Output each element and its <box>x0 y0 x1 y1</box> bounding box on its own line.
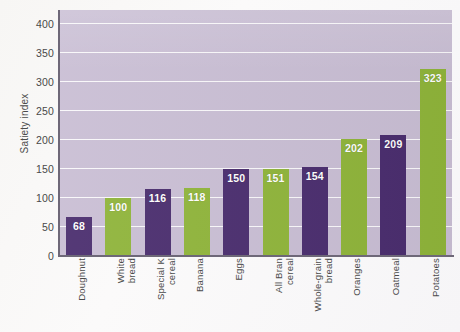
bar-value-label: 154 <box>302 170 328 182</box>
bar-value-label: 202 <box>341 142 367 154</box>
y-tick-label-400: 400 <box>24 18 54 30</box>
y-tick-label-250: 250 <box>24 105 54 117</box>
y-tick-label-200: 200 <box>24 134 54 146</box>
bar-oatmeal[interactable]: 209 <box>380 135 406 256</box>
bar-value-label: 116 <box>145 192 171 204</box>
y-tick-label-300: 300 <box>24 76 54 88</box>
x-tick-label: All Brancereal <box>274 258 295 330</box>
x-tick-whole-grain-bread: Whole-grainbread <box>300 258 326 330</box>
y-tick-label-50: 50 <box>24 221 54 233</box>
bar-special-k-cereal[interactable]: 116 <box>145 189 171 256</box>
gridline-400 <box>60 23 452 25</box>
y-tick-label-100: 100 <box>24 192 54 204</box>
x-tick-special-k-cereal: Special Kcereal <box>143 258 169 330</box>
bar-doughnut[interactable]: 68 <box>66 217 92 256</box>
bar-value-label: 209 <box>380 138 406 150</box>
x-axis-line <box>58 255 454 257</box>
bar-value-label: 323 <box>420 72 446 84</box>
y-axis-tick-labels: 050100150200250300350400 <box>24 10 54 256</box>
x-tick-label: Banana <box>195 258 206 330</box>
bar-value-label: 100 <box>105 201 131 213</box>
x-tick-label: Eggs <box>234 258 245 330</box>
x-axis-tick-labels: DoughnutWhitebreadSpecial KcerealBananaE… <box>58 258 452 332</box>
bar-value-label: 68 <box>66 220 92 232</box>
y-tick-label-150: 150 <box>24 163 54 175</box>
bar-oranges[interactable]: 202 <box>341 139 367 256</box>
x-tick-label: Potatoes <box>431 258 442 330</box>
x-tick-label: Special Kcereal <box>156 258 177 330</box>
gridline-250 <box>60 110 452 112</box>
bar-all-bran-cereal[interactable]: 151 <box>263 169 289 256</box>
x-tick-label: Whitebread <box>116 258 137 330</box>
x-tick-label: Whole-grainbread <box>313 258 334 330</box>
bar-whole-grain-bread[interactable]: 154 <box>302 167 328 256</box>
y-tick-label-0: 0 <box>24 250 54 262</box>
x-tick-eggs: Eggs <box>221 258 247 330</box>
plot-area: 68100116118150151154202209323 <box>58 10 452 256</box>
satiety-index-bar-chart: Satiety index 050100150200250300350400 6… <box>0 0 460 332</box>
x-tick-oatmeal: Oatmeal <box>378 258 404 330</box>
x-tick-label: Doughnut <box>77 258 88 330</box>
x-tick-white-bread: Whitebread <box>103 258 129 330</box>
x-tick-label: Oranges <box>352 258 363 330</box>
x-tick-doughnut: Doughnut <box>64 258 90 330</box>
x-tick-all-bran-cereal: All Brancereal <box>261 258 287 330</box>
x-tick-potatoes: Potatoes <box>418 258 444 330</box>
x-tick-banana: Banana <box>182 258 208 330</box>
gridline-350 <box>60 52 452 54</box>
bar-value-label: 151 <box>263 172 289 184</box>
bar-white-bread[interactable]: 100 <box>105 198 131 256</box>
bar-value-label: 150 <box>223 172 249 184</box>
gridline-300 <box>60 81 452 83</box>
bar-eggs[interactable]: 150 <box>223 169 249 256</box>
x-tick-oranges: Oranges <box>339 258 365 330</box>
bar-value-label: 118 <box>184 191 210 203</box>
bar-potatoes[interactable]: 323 <box>420 69 446 256</box>
bar-banana[interactable]: 118 <box>184 188 210 256</box>
y-tick-label-350: 350 <box>24 47 54 59</box>
x-tick-label: Oatmeal <box>391 258 402 330</box>
